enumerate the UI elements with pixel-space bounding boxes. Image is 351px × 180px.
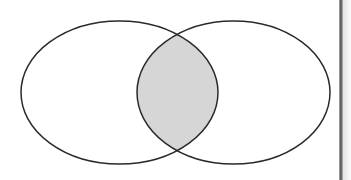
venn-diagram-canvas: Two-set Venn diagram with the intersecti… xyxy=(0,0,351,180)
venn-diagram-figure: Two-set Venn diagram with the intersecti… xyxy=(0,0,351,180)
intersection-region xyxy=(137,21,330,164)
intersection-fill xyxy=(137,21,330,164)
